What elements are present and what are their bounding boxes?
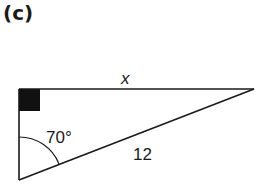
right-triangle-diagram: x 70° 12 bbox=[0, 0, 265, 192]
right-angle-marker bbox=[19, 89, 40, 111]
side-x-label: x bbox=[120, 69, 130, 88]
hypotenuse-label: 12 bbox=[133, 145, 152, 164]
angle-label: 70° bbox=[46, 128, 72, 147]
